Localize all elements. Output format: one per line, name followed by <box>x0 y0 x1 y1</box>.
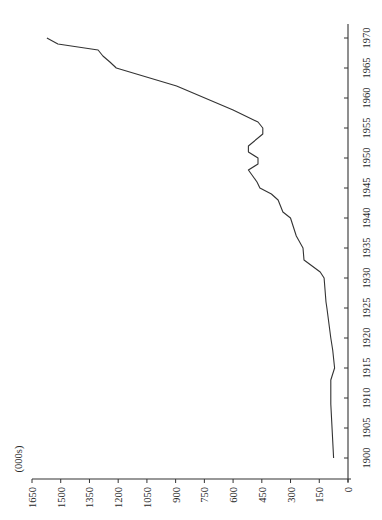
rotated-line-chart: 015030045060075090010501200135015001650 … <box>0 0 382 520</box>
year-tick-label: 1910 <box>361 388 372 409</box>
year-tick-label: 1930 <box>361 268 372 289</box>
value-tick-label: 1200 <box>113 487 124 508</box>
value-axis-ticks: 015030045060075090010501200135015001650 <box>27 479 354 508</box>
year-tick-label: 1960 <box>361 88 372 109</box>
value-tick-label: 300 <box>286 487 297 503</box>
value-tick-label: 150 <box>314 487 325 503</box>
value-axis-unit-label: (000s) <box>13 445 25 472</box>
value-tick-label: 1050 <box>142 487 153 508</box>
year-tick-label: 1955 <box>361 118 372 139</box>
value-tick-label: 600 <box>228 487 239 503</box>
year-tick-label: 1925 <box>361 298 372 319</box>
year-tick-label: 1950 <box>361 148 372 169</box>
year-tick-label: 1915 <box>361 358 372 379</box>
value-tick-label: 750 <box>199 487 210 503</box>
year-tick-label: 1905 <box>361 418 372 439</box>
year-tick-label: 1900 <box>361 448 372 469</box>
value-tick-label: 1650 <box>27 487 38 508</box>
year-tick-label: 1970 <box>361 28 372 49</box>
year-tick-label: 1965 <box>361 58 372 79</box>
value-tick-label: 1350 <box>84 487 95 508</box>
value-tick-label: 450 <box>257 487 268 503</box>
data-series-line <box>47 38 335 458</box>
value-tick-label: 900 <box>171 487 182 503</box>
year-tick-label: 1945 <box>361 178 372 199</box>
value-tick-label: 1500 <box>56 487 67 508</box>
year-tick-label: 1920 <box>361 328 372 349</box>
year-tick-label: 1935 <box>361 238 372 259</box>
value-tick-label: 0 <box>343 487 354 492</box>
year-tick-label: 1940 <box>361 208 372 229</box>
